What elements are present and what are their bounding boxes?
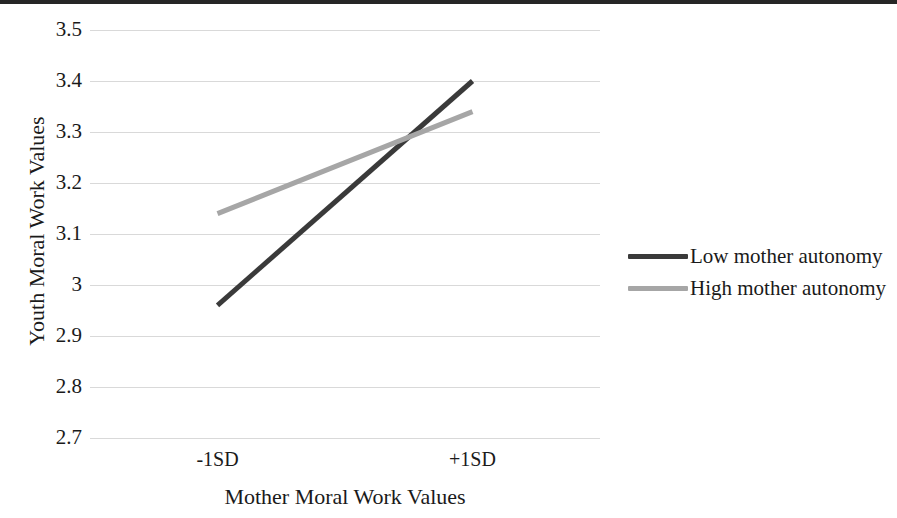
y-tick-label: 2.7	[22, 427, 82, 448]
y-axis-title: Youth Moral Work Values	[24, 81, 50, 381]
series-line	[218, 112, 473, 214]
y-tick-label: 3.5	[22, 19, 82, 40]
legend-item-label: High mother autonomy	[688, 276, 886, 301]
page-top-rule	[0, 0, 897, 4]
chart-figure: 3.53.43.33.23.132.92.82.7 Youth Moral Wo…	[0, 0, 897, 518]
gridline-2.7	[90, 438, 600, 439]
legend-item-label: Low mother autonomy	[688, 244, 882, 269]
series-layer	[90, 30, 600, 438]
legend-item[interactable]: Low mother autonomy	[628, 240, 890, 272]
chart-legend: Low mother autonomyHigh mother autonomy	[628, 240, 890, 304]
x-axis-title: Mother Moral Work Values	[90, 484, 600, 510]
x-tick-label: -1SD	[138, 448, 298, 471]
x-tick-label: +1SD	[393, 448, 553, 471]
legend-item[interactable]: High mother autonomy	[628, 272, 890, 304]
series-line	[218, 81, 473, 305]
legend-line-icon	[628, 254, 688, 259]
legend-line-icon	[628, 286, 688, 291]
plot-area	[90, 30, 600, 438]
